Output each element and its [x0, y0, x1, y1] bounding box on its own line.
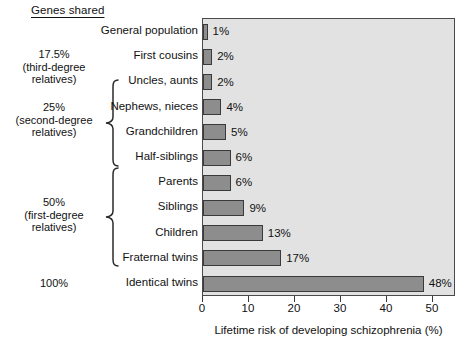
bar [203, 250, 281, 266]
bar-row: 13% [203, 221, 454, 246]
bar [203, 150, 231, 166]
bar-value-label: 13% [268, 225, 291, 241]
bar [203, 99, 221, 115]
bar-row: 9% [203, 195, 454, 220]
bar-value-label: 2% [217, 48, 234, 64]
x-axis-tick-label: 0 [182, 302, 222, 314]
bar-row: 2% [203, 69, 454, 94]
bar [203, 276, 424, 292]
bar-value-label: 9% [249, 200, 266, 216]
bar-row: 2% [203, 44, 454, 69]
schizophrenia-risk-chart: Genes shared 17.5% (third-degree relativ… [0, 0, 476, 343]
bar [203, 175, 231, 191]
bar-row: 6% [203, 170, 454, 195]
x-axis-tick-label: 30 [320, 302, 360, 314]
category-label: Fraternal twins [0, 245, 198, 270]
bar [203, 74, 212, 90]
category-label-column: General populationFirst cousinsUncles, a… [0, 18, 198, 296]
x-axis-tick-label: 40 [366, 302, 406, 314]
category-label: Grandchildren [0, 119, 198, 144]
genes-shared-title: Genes shared [31, 4, 104, 16]
bar-row: 48% [203, 271, 454, 296]
category-label: Uncles, aunts [0, 68, 198, 93]
bar [203, 225, 263, 241]
category-label: Children [0, 220, 198, 245]
bar-value-label: 48% [429, 275, 452, 291]
bar-value-label: 17% [286, 250, 309, 266]
category-label: Half-siblings [0, 144, 198, 169]
bar [203, 124, 226, 140]
category-label: First cousins [0, 43, 198, 68]
x-axis-tick-label: 20 [274, 302, 314, 314]
bar-series: 1%2%2%4%5%6%6%9%13%17%48% [203, 19, 454, 295]
bar-row: 5% [203, 120, 454, 145]
bar [203, 24, 208, 40]
bar-row: 1% [203, 19, 454, 44]
category-label: General population [0, 18, 198, 43]
x-axis: 01020304050 [202, 296, 455, 310]
bar-value-label: 4% [226, 99, 243, 115]
bar [203, 49, 212, 65]
plot-area: 1%2%2%4%5%6%6%9%13%17%48% [202, 18, 455, 296]
bar-row: 4% [203, 95, 454, 120]
bar-value-label: 1% [213, 23, 230, 39]
x-axis-tick-label: 50 [412, 302, 452, 314]
bar-value-label: 6% [236, 149, 253, 165]
category-label: Nephews, nieces [0, 94, 198, 119]
x-axis-title: Lifetime risk of developing schizophreni… [202, 324, 455, 336]
bar-value-label: 5% [231, 124, 248, 140]
x-axis-tick-label: 10 [228, 302, 268, 314]
bar-row: 17% [203, 246, 454, 271]
bar-value-label: 6% [236, 174, 253, 190]
category-label: Identical twins [0, 270, 198, 295]
bar-row: 6% [203, 145, 454, 170]
category-label: Siblings [0, 194, 198, 219]
category-label: Parents [0, 169, 198, 194]
bar [203, 200, 244, 216]
bar-value-label: 2% [217, 74, 234, 90]
